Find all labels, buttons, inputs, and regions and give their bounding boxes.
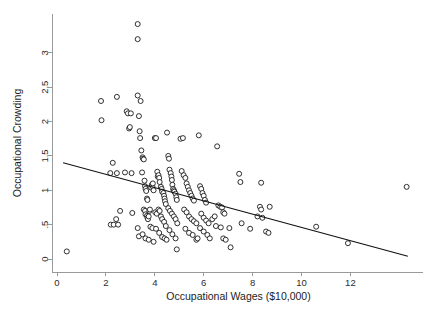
data-point — [215, 144, 220, 149]
data-point — [206, 221, 211, 226]
data-points-group — [64, 22, 409, 254]
data-point — [114, 217, 119, 222]
data-point — [157, 180, 162, 185]
data-point — [139, 148, 144, 153]
scatter-plot-figure: 0246810120.511.522.53Occupational Wages … — [0, 0, 429, 321]
data-point — [345, 241, 350, 246]
y-axis-title: Occupational Crowding — [11, 89, 23, 198]
data-point — [180, 136, 185, 141]
data-point — [135, 93, 140, 98]
x-tick-label: 8 — [250, 277, 255, 288]
data-point — [228, 245, 233, 250]
data-point — [147, 207, 152, 212]
data-point — [164, 237, 169, 242]
data-point — [218, 225, 223, 230]
data-point — [135, 226, 140, 231]
y-tick-label: 1.5 — [39, 149, 50, 162]
data-point — [314, 224, 319, 229]
data-point — [166, 156, 171, 161]
data-point — [128, 111, 133, 116]
data-point — [222, 211, 227, 216]
y-tick-label: 0 — [39, 256, 50, 261]
data-point — [140, 170, 145, 175]
data-point — [118, 208, 123, 213]
data-point — [259, 207, 264, 212]
axes-group — [48, 14, 423, 276]
data-point — [127, 125, 132, 130]
data-point — [136, 114, 141, 119]
data-point — [99, 98, 104, 103]
data-point — [151, 188, 156, 193]
x-tick-label: 10 — [296, 277, 307, 288]
x-tick-label: 6 — [201, 277, 206, 288]
x-tick-label: 4 — [152, 277, 157, 288]
y-tick-label: 2 — [39, 119, 50, 124]
plot-canvas: 0246810120.511.522.53Occupational Wages … — [0, 0, 429, 321]
data-point — [174, 197, 179, 202]
data-point — [194, 221, 199, 226]
data-point — [183, 226, 188, 231]
data-point — [137, 129, 142, 134]
data-point — [248, 226, 253, 231]
data-point — [64, 249, 69, 254]
data-point — [163, 224, 168, 229]
data-point — [175, 221, 180, 226]
data-point — [116, 222, 121, 227]
data-point — [114, 171, 119, 176]
data-point — [129, 171, 134, 176]
data-point — [169, 178, 174, 183]
data-point — [183, 175, 188, 180]
data-point — [212, 214, 217, 219]
regression-fit-line — [63, 163, 408, 256]
data-point — [266, 230, 271, 235]
data-point — [238, 180, 243, 185]
data-point — [130, 210, 135, 215]
x-tick-label: 12 — [345, 277, 356, 288]
data-point — [196, 133, 201, 138]
data-point — [157, 208, 162, 213]
data-point — [173, 236, 178, 241]
data-point — [135, 22, 140, 27]
data-point — [190, 232, 195, 237]
data-point — [223, 237, 228, 242]
data-point — [99, 118, 104, 123]
data-point — [135, 37, 140, 42]
data-point — [151, 239, 156, 244]
data-point — [146, 237, 151, 242]
x-tick-label: 0 — [54, 277, 59, 288]
data-point — [207, 236, 212, 241]
y-tick-label: .5 — [39, 221, 50, 229]
data-point — [146, 214, 151, 219]
data-point — [145, 197, 150, 202]
data-point — [237, 171, 242, 176]
data-point — [213, 224, 218, 229]
data-point — [110, 160, 115, 165]
data-point — [239, 221, 244, 226]
fit-line-group — [63, 163, 408, 256]
data-point — [150, 181, 155, 186]
data-point — [267, 204, 272, 209]
data-point — [144, 188, 149, 193]
y-tick-label: 1 — [39, 188, 50, 193]
y-tick-label: 3 — [39, 50, 50, 55]
data-point — [142, 178, 147, 183]
data-point — [138, 98, 143, 103]
data-point — [122, 170, 127, 175]
data-point — [154, 136, 159, 141]
data-point — [174, 247, 179, 252]
data-point — [141, 157, 146, 162]
data-point — [195, 236, 200, 241]
data-point — [114, 94, 119, 99]
x-tick-label: 2 — [103, 277, 108, 288]
data-point — [138, 136, 143, 141]
data-point — [259, 180, 264, 185]
y-tick-label: 2.5 — [39, 81, 50, 94]
data-point — [165, 130, 170, 135]
x-axis-title: Occupational Wages ($10,000) — [166, 290, 310, 302]
data-point — [404, 184, 409, 189]
data-point — [227, 226, 232, 231]
